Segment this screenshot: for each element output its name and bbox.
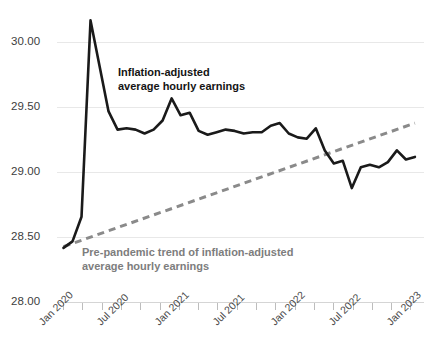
ytick-label-30: 30.00 [11, 35, 40, 47]
annotation-main-line2: average hourly earnings [118, 80, 245, 94]
series-line-inflation-adjusted-earnings [64, 20, 415, 248]
annotation-trend-line2: average hourly earnings [82, 260, 293, 274]
series-line-pre-pandemic-trend [64, 123, 415, 247]
annotation-main-series: Inflation-adjusted average hourly earnin… [118, 66, 245, 93]
annotation-main-line1: Inflation-adjusted [118, 66, 245, 80]
ytick-label-28-50: 28.50 [11, 230, 40, 242]
chart-container: 30.00 29.50 29.00 28.50 28.00 Jan 2020 J… [0, 0, 431, 364]
chart-plot-area [0, 0, 431, 364]
annotation-trend-series: Pre-pandemic trend of inflation-adjusted… [82, 246, 293, 273]
annotation-trend-line1: Pre-pandemic trend of inflation-adjusted [82, 246, 293, 260]
ytick-label-28: 28.00 [11, 295, 40, 307]
ytick-label-29: 29.00 [11, 165, 40, 177]
ytick-label-29-50: 29.50 [11, 100, 40, 112]
